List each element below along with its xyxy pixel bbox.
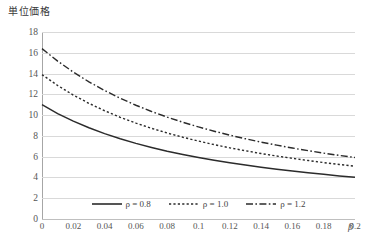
y-tick-label: 6 xyxy=(4,152,38,162)
chart-container: 単位価格 024681012141618 00.020.040.060.080.… xyxy=(0,0,366,250)
legend-line-swatch xyxy=(92,200,122,208)
y-tick-label: 8 xyxy=(4,131,38,141)
x-axis-tick-labels: 00.020.040.060.080.10.120.140.160.180.2 xyxy=(42,221,355,237)
legend-entry[interactable]: ρ = 1.2 xyxy=(246,199,305,209)
legend-line-swatch xyxy=(169,200,199,208)
y-tick-label: 0 xyxy=(4,214,38,224)
plot-area xyxy=(42,32,355,219)
y-tick-label: 14 xyxy=(4,69,38,79)
y-tick-label: 10 xyxy=(4,110,38,120)
x-tick-label: 0.08 xyxy=(159,221,175,231)
x-tick-label: 0.14 xyxy=(253,221,269,231)
x-tick-label: 0.1 xyxy=(193,221,204,231)
x-tick-label: 0.12 xyxy=(222,221,238,231)
x-tick-label: 0.06 xyxy=(128,221,144,231)
y-tick-label: 4 xyxy=(4,172,38,182)
y-tick-label: 2 xyxy=(4,193,38,203)
series-line-1 xyxy=(42,75,355,167)
chart-legend: ρ = 0.8ρ = 1.0ρ = 1.2 xyxy=(42,196,355,212)
y-axis-title: 単位価格 xyxy=(8,3,50,18)
series-line-0 xyxy=(42,105,355,178)
x-axis-title: β xyxy=(348,221,353,232)
series-lines-svg xyxy=(42,32,355,219)
legend-line-swatch xyxy=(246,200,276,208)
y-tick-label: 18 xyxy=(4,27,38,37)
legend-label: ρ = 0.8 xyxy=(126,199,151,209)
y-tick-label: 16 xyxy=(4,48,38,58)
legend-entry[interactable]: ρ = 0.8 xyxy=(92,199,151,209)
y-tick-label: 12 xyxy=(4,89,38,99)
legend-entry[interactable]: ρ = 1.0 xyxy=(169,199,228,209)
x-tick-label: 0.02 xyxy=(65,221,81,231)
legend-label: ρ = 1.2 xyxy=(280,199,305,209)
x-tick-label: 0.04 xyxy=(97,221,113,231)
x-tick-label: 0.18 xyxy=(316,221,332,231)
gridline xyxy=(42,219,355,220)
x-tick-label: 0 xyxy=(40,221,45,231)
legend-label: ρ = 1.0 xyxy=(203,199,228,209)
y-axis-tick-labels: 024681012141618 xyxy=(0,32,38,219)
x-tick-label: 0.16 xyxy=(285,221,301,231)
